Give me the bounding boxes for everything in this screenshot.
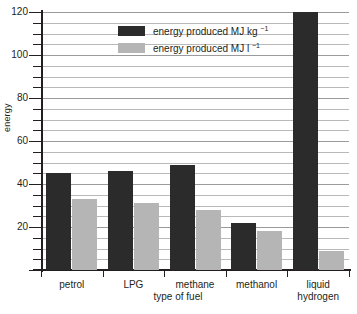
bar	[196, 210, 221, 270]
y-tick-minor	[33, 87, 41, 88]
bar	[231, 223, 256, 270]
x-tick-label-line: LPG	[103, 279, 165, 291]
legend-item-0: energy produced MJ kg −1	[118, 24, 268, 38]
bar	[134, 203, 159, 270]
bar	[319, 251, 344, 270]
y-tick-minor	[33, 44, 41, 45]
y-tick-major	[29, 184, 41, 185]
y-tick-major	[29, 55, 41, 56]
y-tick-minor	[33, 34, 41, 35]
x-tick-label: methanol	[226, 279, 288, 291]
bar	[46, 173, 71, 270]
x-tick-mark	[226, 271, 227, 277]
x-tick-label-line: liquid	[287, 279, 349, 291]
y-tick-major	[29, 12, 41, 13]
bar	[170, 165, 195, 270]
legend-item-1: energy produced MJ l −1	[118, 41, 268, 55]
x-tick-label: liquidhydrogen	[287, 279, 349, 302]
legend-swatch-icon-dark	[118, 26, 145, 36]
y-tick-minor	[33, 130, 41, 131]
legend-label-1: energy produced MJ l −1	[153, 43, 260, 54]
x-tick-mark	[287, 271, 288, 277]
y-tick-label: 60	[2, 136, 28, 146]
x-tick-mark	[349, 271, 350, 277]
x-tick-label-line: hydrogen	[287, 291, 349, 303]
y-tick-minor	[33, 152, 41, 153]
x-tick-label: LPG	[103, 279, 165, 291]
x-tick-label: methane	[164, 279, 226, 291]
y-tick-major	[29, 141, 41, 142]
x-tick-label: petrol	[41, 279, 103, 291]
bar	[72, 199, 97, 270]
legend: energy produced MJ kg −1 energy produced…	[118, 24, 268, 58]
y-tick-label: 100	[2, 50, 28, 60]
y-tick-minor	[33, 66, 41, 67]
y-tick-minor	[33, 216, 41, 217]
y-tick-minor	[33, 249, 41, 250]
x-tick-label-line: methane	[164, 279, 226, 291]
bar	[257, 231, 282, 270]
bar	[293, 12, 318, 270]
x-tick-mark	[164, 271, 165, 277]
x-tick-label-line: petrol	[41, 279, 103, 291]
y-tick-major	[29, 227, 41, 228]
y-tick-minor	[33, 163, 41, 164]
legend-label-0: energy produced MJ kg −1	[153, 26, 268, 37]
x-tick-label-line: methanol	[226, 279, 288, 291]
y-tick-minor	[33, 259, 41, 260]
y-tick-minor	[33, 23, 41, 24]
bar	[108, 171, 133, 270]
x-axis-title: type of fuel	[142, 291, 214, 302]
y-tick-minor	[33, 173, 41, 174]
y-tick-minor	[33, 195, 41, 196]
x-tick-mark	[103, 271, 104, 277]
legend-swatch-icon-light	[118, 43, 145, 53]
y-tick-minor	[33, 206, 41, 207]
y-tick-major	[29, 98, 41, 99]
bar-chart: energy 20406080100120 petrolLPGmethaneme…	[0, 0, 357, 314]
x-tick-mark	[41, 271, 42, 277]
y-tick-label: 20	[2, 222, 28, 232]
y-tick-minor	[33, 77, 41, 78]
y-tick-label: 80	[2, 93, 28, 103]
y-tick-minor	[33, 120, 41, 121]
y-tick-minor	[33, 238, 41, 239]
y-tick-label: 40	[2, 179, 28, 189]
y-tick-label: 120	[2, 7, 28, 17]
y-tick-minor	[33, 109, 41, 110]
